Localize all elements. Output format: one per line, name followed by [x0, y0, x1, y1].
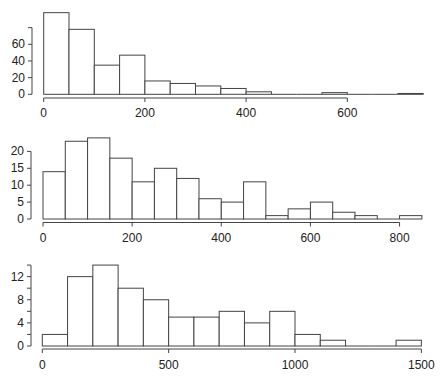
histogram-bar	[400, 216, 422, 219]
histogram-middle: 051015200200400600800	[11, 138, 422, 245]
histogram-bar	[221, 88, 246, 94]
histogram-bar	[88, 138, 110, 219]
y-tick-label: 12	[11, 270, 25, 284]
histogram-bar	[145, 81, 170, 94]
y-tick-label: 60	[12, 37, 26, 51]
histogram-bar	[143, 300, 168, 346]
histogram-bar	[170, 83, 195, 94]
y-tick-label: 4	[17, 316, 24, 330]
x-tick-label: 600	[300, 231, 320, 245]
y-tick-label: 0	[18, 87, 25, 101]
histogram-bar	[110, 158, 132, 219]
histogram-bar	[94, 65, 119, 94]
x-tick-label: 500	[159, 358, 179, 372]
x-tick-label: 800	[390, 231, 410, 245]
histogram-bar	[169, 317, 194, 346]
histogram-bar	[44, 13, 69, 95]
histogram-bar	[177, 178, 199, 219]
x-tick-label: 1000	[282, 358, 309, 372]
histogram-bar	[118, 288, 143, 346]
histogram-bar	[244, 323, 269, 346]
histogram-bar	[194, 317, 219, 346]
histogram-bar	[355, 216, 377, 219]
histogram-bar	[199, 199, 221, 219]
y-tick-label: 0	[17, 212, 24, 226]
histogram-bar	[398, 93, 423, 94]
y-tick-label: 5	[17, 195, 24, 209]
histogram-bar	[221, 202, 243, 219]
y-tick-label: 8	[17, 293, 24, 307]
histogram-figure: 02040600200400600 051015200200400600800 …	[0, 0, 442, 384]
x-tick-label: 200	[122, 231, 142, 245]
x-tick-label: 0	[40, 231, 47, 245]
y-tick-label: 10	[11, 178, 25, 192]
histogram-bar	[69, 29, 94, 94]
histogram-bar	[333, 212, 355, 219]
x-tick-label: 0	[40, 106, 47, 120]
y-tick-label: 15	[11, 161, 25, 175]
histogram-bottom: 04812050010001500	[11, 265, 435, 372]
histogram-bar	[68, 277, 93, 346]
histogram-bar	[310, 202, 332, 219]
histogram-bar	[266, 216, 288, 219]
x-tick-label: 400	[236, 106, 256, 120]
histogram-panels: 02040600200400600 051015200200400600800 …	[0, 0, 442, 384]
histogram-bar	[42, 334, 67, 346]
histogram-bar	[244, 182, 266, 219]
x-tick-label: 200	[135, 106, 155, 120]
histogram-bar	[43, 172, 65, 219]
x-tick-label: 400	[211, 231, 231, 245]
y-tick-label: 0	[17, 339, 24, 353]
histogram-bar	[396, 340, 421, 346]
histogram-bar	[65, 141, 87, 219]
y-tick-label: 40	[12, 54, 26, 68]
histogram-top: 02040600200400600	[12, 13, 424, 120]
y-tick-label: 20	[11, 144, 25, 158]
histogram-bar	[288, 209, 310, 219]
y-tick-label: 20	[12, 71, 26, 85]
histogram-bar	[270, 311, 295, 346]
histogram-bar	[120, 55, 145, 94]
histogram-bar	[246, 92, 271, 94]
x-tick-label: 1500	[408, 358, 435, 372]
histogram-bar	[295, 334, 320, 346]
histogram-bar	[219, 311, 244, 346]
histogram-bar	[196, 86, 221, 94]
histogram-bar	[322, 93, 347, 95]
histogram-bar	[154, 168, 176, 219]
histogram-bar	[93, 265, 118, 346]
x-tick-label: 0	[39, 358, 46, 372]
histogram-bar	[320, 340, 345, 346]
x-tick-label: 600	[337, 106, 357, 120]
histogram-bar	[132, 182, 154, 219]
